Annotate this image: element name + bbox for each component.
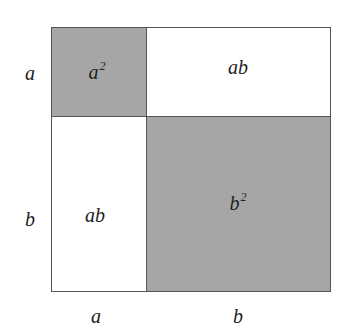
- label-b-squared-exponent: 2: [241, 190, 247, 204]
- label-a-squared: a2: [89, 62, 106, 83]
- vertical-divider: [146, 27, 147, 292]
- horizontal-divider: [51, 116, 331, 117]
- label-a-squared-base: a: [89, 61, 99, 83]
- label-a-squared-exponent: 2: [100, 59, 106, 73]
- label-ab-top: ab: [228, 57, 248, 77]
- side-label-left-bottom: b: [25, 209, 35, 229]
- label-b-squared-base: b: [230, 192, 240, 214]
- label-ab-left: ab: [85, 205, 105, 225]
- side-label-bottom-left: a: [91, 306, 101, 326]
- side-label-bottom-right: b: [233, 306, 243, 326]
- side-label-left-top: a: [25, 63, 35, 83]
- label-b-squared: b2: [230, 193, 247, 214]
